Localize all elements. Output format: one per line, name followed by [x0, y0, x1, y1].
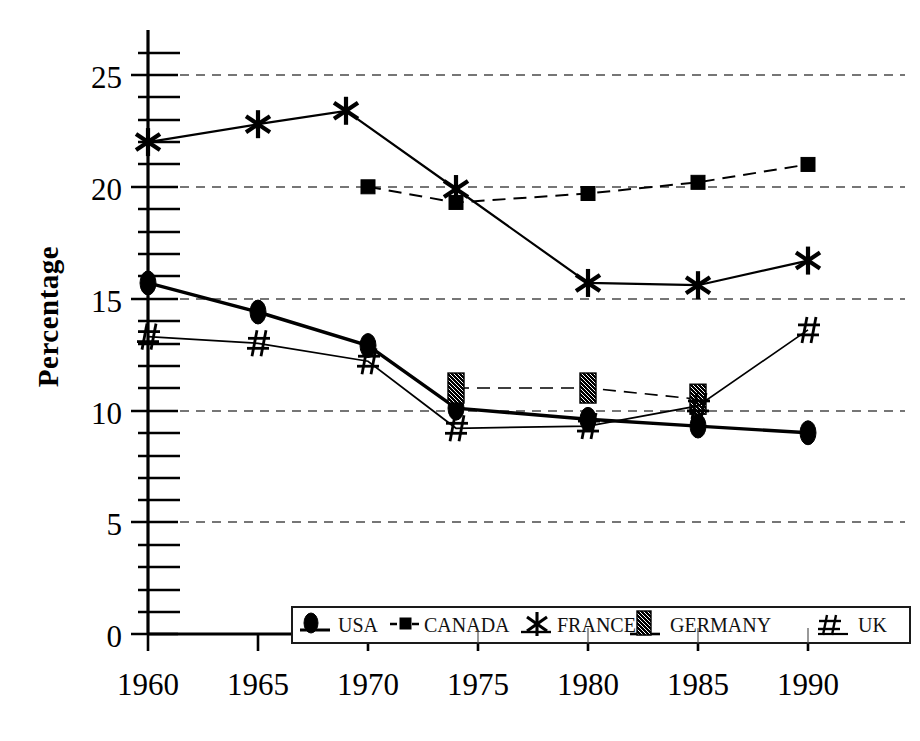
data-point-france[interactable] — [246, 110, 270, 138]
data-point-france[interactable] — [796, 247, 820, 275]
y-tick-label: 20 — [91, 172, 122, 207]
legend-label: FRANCE — [557, 614, 636, 636]
small-square-marker-icon — [801, 157, 815, 171]
chart-legend: USA CANADA FRANCE — [292, 607, 910, 643]
data-point-usa[interactable] — [140, 271, 156, 295]
data-point-germany[interactable] — [448, 373, 464, 403]
y-axis-major-ticks — [131, 75, 178, 634]
x-tick-label: 1960 — [117, 667, 179, 702]
asterisk-marker-icon — [334, 97, 358, 125]
legend-item-france[interactable]: FRANCE — [521, 612, 636, 636]
legend-label: UK — [858, 614, 887, 636]
series-line-uk — [148, 330, 808, 428]
data-point-canada[interactable] — [581, 187, 595, 201]
chart-page: Percentage — [0, 0, 920, 741]
asterisk-marker-icon — [444, 175, 468, 203]
y-tick-label: 5 — [107, 507, 123, 542]
data-series-layer — [136, 97, 820, 445]
legend-item-usa[interactable]: USA — [300, 613, 379, 636]
series-germany — [448, 373, 706, 414]
x-tick-label: 1985 — [667, 667, 729, 702]
series-france — [136, 97, 820, 299]
asterisk-marker-icon — [796, 247, 820, 275]
y-tick-label: 0 — [107, 619, 123, 654]
small-square-marker-icon — [400, 618, 411, 629]
series-canada — [361, 157, 815, 209]
x-tick-label: 1990 — [777, 667, 839, 702]
small-square-marker-icon — [361, 180, 375, 194]
filled-ellipse-marker-icon — [304, 613, 318, 633]
data-point-germany[interactable] — [580, 373, 596, 403]
hatched-rect-marker-icon — [448, 373, 464, 403]
data-point-france[interactable] — [334, 97, 358, 125]
filled-ellipse-marker-icon — [250, 300, 266, 324]
x-tick-label: 1970 — [337, 667, 399, 702]
series-line-france — [148, 111, 808, 285]
data-point-canada[interactable] — [691, 175, 705, 189]
x-tick-label: 1980 — [557, 667, 619, 702]
y-tick-label: 15 — [91, 284, 122, 319]
data-point-canada[interactable] — [801, 157, 815, 171]
legend-label: GERMANY — [670, 614, 771, 636]
small-square-marker-icon — [581, 187, 595, 201]
hash-marker-icon — [797, 317, 820, 343]
data-point-uk[interactable] — [797, 317, 820, 343]
asterisk-marker-icon — [246, 110, 270, 138]
x-tick-label: 1965 — [227, 667, 289, 702]
data-point-usa[interactable] — [250, 300, 266, 324]
data-point-france[interactable] — [444, 175, 468, 203]
y-tick-label: 25 — [91, 60, 122, 95]
legend-label: CANADA — [424, 614, 510, 636]
y-axis-tick-labels: 25 20 15 10 5 0 — [91, 60, 122, 654]
filled-ellipse-marker-icon — [140, 271, 156, 295]
gridlines — [148, 75, 905, 522]
y-tick-label: 10 — [91, 396, 122, 431]
series-uk — [137, 317, 820, 441]
data-point-usa[interactable] — [800, 421, 816, 445]
small-square-marker-icon — [691, 175, 705, 189]
legend-item-germany[interactable]: GERMANY — [630, 611, 771, 636]
series-usa — [140, 271, 816, 445]
data-point-canada[interactable] — [361, 180, 375, 194]
line-chart-plot: 25 20 15 10 5 0 1960 1965 1970 1975 1980… — [0, 0, 920, 741]
hatched-rect-marker-icon — [637, 611, 651, 635]
series-line-germany — [456, 388, 698, 399]
legend-label: USA — [338, 614, 379, 636]
x-tick-label: 1975 — [447, 667, 509, 702]
x-axis-tick-labels: 1960 1965 1970 1975 1980 1985 1990 — [117, 667, 839, 702]
filled-ellipse-marker-icon — [800, 421, 816, 445]
hatched-rect-marker-icon — [580, 373, 596, 403]
